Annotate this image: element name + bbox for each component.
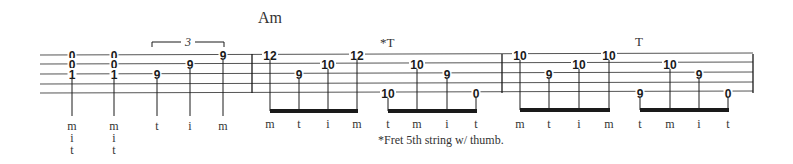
fret-number: 9	[546, 68, 553, 82]
beams	[270, 108, 729, 113]
fret-number: 10	[663, 58, 677, 72]
finger-label: t	[474, 117, 478, 131]
finger-label: m	[265, 117, 275, 131]
fret-number: 9	[637, 87, 644, 101]
staff-line-3	[40, 72, 753, 74]
triplet-bracket: 3	[152, 35, 224, 49]
finger-label: i	[326, 117, 330, 131]
fret-number: 10	[321, 58, 335, 72]
fret-number: 10	[572, 58, 586, 72]
fret-number: 9	[187, 58, 194, 72]
beam	[270, 109, 358, 113]
footnote: *Fret 5th string w/ thumb.	[378, 133, 504, 147]
finger-label: i	[445, 117, 449, 131]
fret-number: 10	[410, 58, 424, 72]
note-stems	[72, 60, 728, 116]
finger-label: t	[638, 117, 642, 131]
fret-number: 0	[725, 87, 732, 101]
fret-number: 10	[602, 49, 616, 63]
fret-number: 0	[473, 87, 480, 101]
fret-number: 10	[513, 49, 527, 63]
staff-line-2	[40, 62, 753, 64]
finger-label: m	[604, 117, 614, 131]
thumb-annotation: T	[635, 34, 643, 49]
staff-line-5	[40, 91, 753, 93]
fret-number: 9	[154, 68, 161, 82]
finger-label: t	[155, 119, 159, 133]
finger-label: m	[218, 119, 228, 133]
fret-number: 10	[381, 87, 395, 101]
finger-label: t	[112, 143, 116, 157]
fret-number: 9	[444, 68, 451, 82]
fret-number: 1	[69, 68, 76, 82]
guitar-tablature: 3 0010019991291012101090109101091090 mit…	[0, 0, 793, 164]
fret-number: 12	[263, 49, 277, 63]
finger-label: t	[547, 117, 551, 131]
finger-label: i	[188, 119, 192, 133]
triplet-number: 3	[184, 35, 191, 49]
beam	[640, 108, 729, 112]
finger-label: t	[726, 117, 730, 131]
fret-number: 12	[350, 49, 364, 63]
beam	[388, 109, 477, 113]
finger-label: t	[297, 117, 301, 131]
finger-label: i	[697, 117, 701, 131]
chord-label: Am	[258, 9, 283, 26]
finger-label: m	[665, 117, 675, 131]
finger-label: m	[515, 117, 525, 131]
tab-staff	[40, 53, 753, 93]
fret-number: 9	[220, 49, 227, 63]
fret-number: 1	[111, 68, 118, 82]
fret-number: 9	[296, 68, 303, 82]
finger-label: m	[352, 117, 362, 131]
staff-line-1	[40, 53, 753, 55]
finger-label: t	[386, 117, 390, 131]
finger-label: t	[70, 143, 74, 157]
thumb-annotation: *T	[380, 35, 395, 50]
staff-line-4	[40, 82, 753, 84]
beam	[520, 108, 610, 112]
finger-label: i	[577, 117, 581, 131]
fret-number: 9	[696, 68, 703, 82]
finger-label: m	[412, 117, 422, 131]
